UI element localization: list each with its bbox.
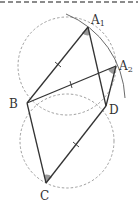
segments — [27, 27, 116, 183]
lower-circle — [20, 94, 114, 188]
label-C: C — [40, 189, 49, 203]
segment-BA1 — [27, 27, 88, 103]
label-A2: A2 — [118, 59, 133, 74]
geometry-diagram: A1 A2 B D C — [0, 0, 138, 205]
label-A1: A1 — [90, 13, 105, 28]
label-B: B — [9, 97, 18, 111]
label-D: D — [109, 103, 119, 117]
segment-BA2 — [27, 66, 116, 103]
segment-A1D — [88, 27, 106, 106]
equal-tick-marks — [55, 62, 79, 147]
segment-BC — [27, 103, 46, 183]
